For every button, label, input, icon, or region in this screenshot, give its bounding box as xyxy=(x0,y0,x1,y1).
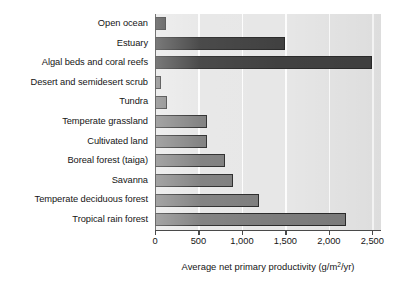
x-axis-title: Average net primary productivity (g/m2/y… xyxy=(155,261,381,272)
x-axis-line xyxy=(155,230,381,231)
category-label: Temperate deciduous forest xyxy=(35,190,148,210)
bar xyxy=(155,76,161,89)
bar xyxy=(155,194,259,207)
bar-row xyxy=(155,151,381,171)
bar xyxy=(155,174,233,187)
category-label: Desert and semidesert scrub xyxy=(31,73,149,93)
category-label: Algal beds and coral reefs xyxy=(42,53,148,73)
category-label: Cultivated land xyxy=(87,132,148,152)
bar-row xyxy=(155,14,381,34)
x-axis-tick xyxy=(329,230,330,235)
bar-row xyxy=(155,132,381,152)
bar-row xyxy=(155,53,381,73)
bar xyxy=(155,135,207,148)
category-label: Estuary xyxy=(117,34,148,54)
bar xyxy=(155,56,372,69)
bar-row xyxy=(155,73,381,93)
category-label: Temperate grassland xyxy=(62,112,148,132)
x-axis-tick-label: 2,000 xyxy=(317,236,340,246)
category-axis-labels: Open oceanEstuaryAlgal beds and coral re… xyxy=(0,14,152,230)
bar xyxy=(155,17,166,30)
x-axis-title-suffix: /yr) xyxy=(341,261,355,272)
x-axis-tick xyxy=(285,230,286,235)
bar-row xyxy=(155,210,381,230)
x-axis-title-prefix: Average net primary productivity (g/m xyxy=(182,261,338,272)
x-axis-tick-label: 0 xyxy=(152,236,157,246)
bar xyxy=(155,37,285,50)
x-axis-tick xyxy=(155,230,156,235)
bar-row xyxy=(155,190,381,210)
bar xyxy=(155,154,225,167)
category-label: Boreal forest (taiga) xyxy=(67,151,148,171)
bar xyxy=(155,115,207,128)
x-axis-tick xyxy=(242,230,243,235)
x-axis-tick xyxy=(198,230,199,235)
bar-chart-figure: Open oceanEstuaryAlgal beds and coral re… xyxy=(0,0,398,288)
x-axis-tick-label: 1,500 xyxy=(274,236,297,246)
bar xyxy=(155,96,167,109)
category-label: Tropical rain forest xyxy=(72,210,148,230)
bar-row xyxy=(155,92,381,112)
x-axis-tick xyxy=(372,230,373,235)
plot-area xyxy=(155,14,381,230)
x-axis-tick-label: 500 xyxy=(191,236,207,246)
bar-row xyxy=(155,112,381,132)
category-label: Tundra xyxy=(119,92,148,112)
bar xyxy=(155,213,346,226)
bar-row xyxy=(155,171,381,191)
category-label: Open ocean xyxy=(98,14,148,34)
category-label: Savanna xyxy=(112,171,148,191)
x-axis-tick-label: 1,000 xyxy=(230,236,253,246)
bar-row xyxy=(155,34,381,54)
x-axis-tick-label: 2,500 xyxy=(361,236,384,246)
